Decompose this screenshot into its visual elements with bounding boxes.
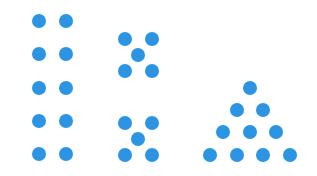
dot <box>118 116 132 130</box>
dot <box>243 81 257 95</box>
dot <box>283 148 297 162</box>
dot <box>32 81 46 95</box>
dot <box>118 148 132 162</box>
dot <box>118 64 132 78</box>
dot <box>59 81 73 95</box>
dot <box>131 48 145 62</box>
dot <box>256 148 270 162</box>
dot <box>145 32 159 46</box>
dot <box>131 132 145 146</box>
dot <box>269 125 283 139</box>
dot <box>32 14 46 28</box>
dot <box>32 147 46 161</box>
dot <box>203 148 217 162</box>
dot <box>230 103 244 117</box>
dot <box>145 116 159 130</box>
dot <box>32 47 46 61</box>
dot <box>145 148 159 162</box>
dot <box>243 125 257 139</box>
dot <box>118 32 132 46</box>
dot <box>59 114 73 128</box>
dot <box>59 147 73 161</box>
dot <box>32 114 46 128</box>
dot-pattern-diagram <box>0 0 317 176</box>
dot <box>59 47 73 61</box>
dot <box>256 103 270 117</box>
dot <box>145 64 159 78</box>
dot <box>59 14 73 28</box>
dot <box>216 125 230 139</box>
dot <box>230 148 244 162</box>
